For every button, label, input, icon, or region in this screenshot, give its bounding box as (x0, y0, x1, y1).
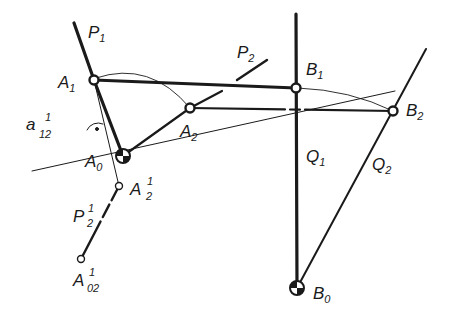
label-q1: Q1 (306, 147, 325, 168)
label-p2-prime-sup: 1 (88, 202, 94, 214)
joint-a1 (90, 76, 99, 85)
label-p2-prime: P (73, 207, 85, 226)
label-a2-prime-sup: 1 (147, 175, 153, 187)
label-p2-prime-sub: 2 (86, 217, 93, 229)
label-a02-prime-sup: 1 (89, 266, 95, 278)
right-angle-dot (96, 128, 99, 131)
label-b0: B0 (313, 284, 331, 305)
fixed-pivot-b0-icon (290, 281, 304, 295)
label-b2: B2 (406, 101, 423, 122)
label-p2: P2 (237, 43, 254, 64)
joint-b1 (292, 84, 301, 93)
link-q1 (296, 14, 297, 288)
arc-b1-b2 (298, 88, 393, 111)
label-a2-prime: A (129, 180, 141, 199)
label-a1: A1 (57, 73, 75, 94)
label-a12: a (26, 115, 35, 134)
link-q2 (297, 49, 426, 288)
label-a2-prime-sub: 2 (145, 190, 152, 202)
label-a02-prime: A (72, 271, 84, 290)
label-a2: A2 (179, 122, 197, 143)
fixed-pivot-a0-icon (116, 149, 130, 163)
label-b1: B1 (306, 60, 323, 81)
label-a0: A0 (84, 152, 103, 173)
joint-a02-prime (78, 256, 85, 263)
joint-a2-prime (116, 183, 123, 190)
arc-a1-a2 (96, 73, 190, 108)
coupler-a1-b1 (94, 80, 296, 88)
label-a12-sub: 12 (39, 128, 51, 140)
link-a1-a0 (94, 80, 123, 156)
label-p1: P1 (88, 23, 105, 44)
joint-b2 (389, 107, 398, 116)
joint-a2 (186, 104, 195, 113)
label-q2: Q2 (372, 155, 391, 176)
linkage-diagram: P1 A1 P2 A2 A0 B1 B2 B0 Q1 Q2 a 1 12 A 1… (0, 0, 453, 318)
label-a12-sup: 1 (45, 111, 51, 123)
label-a02-prime-sub: 02 (87, 282, 99, 294)
right-angle-marker (87, 123, 103, 130)
coupler-a2-b2 (190, 108, 393, 111)
